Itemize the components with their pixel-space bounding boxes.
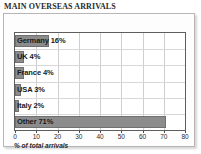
chart-figure: MAIN OVERSEAS ARRIVALS Germany 16%UK 4%F… bbox=[0, 0, 201, 154]
bar-row: Other 71% bbox=[15, 115, 185, 131]
x-tick-label: 80 bbox=[181, 133, 188, 140]
bar-label-usa: USA 3% bbox=[17, 84, 45, 96]
bar-row: UK 4% bbox=[15, 50, 185, 66]
bar-row: France 4% bbox=[15, 66, 185, 82]
x-axis-label: % of total arrivals bbox=[14, 142, 68, 149]
bar-row: Germany 16% bbox=[15, 34, 185, 50]
x-tick-label: 60 bbox=[139, 133, 146, 140]
bar-row: USA 3% bbox=[15, 83, 185, 99]
x-tick-label: 40 bbox=[96, 133, 103, 140]
x-tick-label: 10 bbox=[33, 133, 40, 140]
bar-label-france: France 4% bbox=[17, 67, 54, 79]
bar-label-uk: UK 4% bbox=[17, 51, 40, 63]
bar-row: Italy 2% bbox=[15, 99, 185, 115]
x-tick-label: 30 bbox=[75, 133, 82, 140]
bar-label-italy: Italy 2% bbox=[17, 100, 44, 112]
chart-panel: Germany 16%UK 4%France 4%USA 3%Italy 2%O… bbox=[3, 13, 195, 147]
chart-title: MAIN OVERSEAS ARRIVALS bbox=[4, 2, 116, 11]
x-tick-label: 0 bbox=[13, 133, 17, 140]
x-tick-label: 70 bbox=[160, 133, 167, 140]
bar-label-germany: Germany 16% bbox=[17, 35, 66, 47]
x-tick-label: 50 bbox=[118, 133, 125, 140]
x-tick-label: 20 bbox=[54, 133, 61, 140]
plot-area: Germany 16%UK 4%France 4%USA 3%Italy 2%O… bbox=[14, 32, 186, 131]
bar-label-other: Other 71% bbox=[17, 116, 53, 128]
